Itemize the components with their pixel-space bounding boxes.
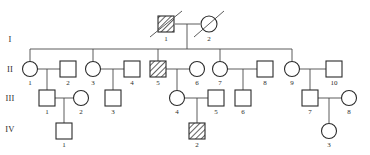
individual-II-2-male-square[interactable] [60,61,76,77]
individual-III-4-female-circle[interactable] [170,91,185,106]
individual-III-3-male-square[interactable] [105,90,121,106]
individual-III-8-female-circle[interactable] [342,91,357,106]
label-II-1: 1 [28,79,32,87]
generation-label-IV: IV [5,124,15,134]
individual-II-6-female-circle[interactable] [190,62,205,77]
label-II-7: 7 [218,79,222,87]
individual-II-9-female-circle[interactable] [285,62,300,77]
generation-label-II: II [7,64,13,74]
label-III-7: 7 [308,108,312,116]
individual-IV-3-female-circle[interactable] [322,124,337,139]
label-II-9: 9 [290,79,294,87]
individual-II-7-female-circle[interactable] [213,62,228,77]
individual-III-5-male-square[interactable] [208,90,224,106]
generation-label-III: III [5,93,14,103]
individual-IV-1-male-square[interactable] [56,123,72,139]
label-IV-2: 2 [195,141,199,149]
label-III-4: 4 [175,108,179,116]
label-III-3: 3 [111,108,115,116]
label-III-5: 5 [214,108,218,116]
individual-II-4-male-square[interactable] [124,61,140,77]
label-I-1: 1 [164,35,168,43]
individual-II-5-affected-male-square[interactable] [150,61,166,77]
label-II-3: 3 [91,79,95,87]
label-III-6: 6 [241,108,245,116]
individual-II-10-male-square[interactable] [326,61,342,77]
label-II-2: 2 [66,79,70,87]
label-IV-1: 1 [62,141,66,149]
label-III-2: 2 [79,108,83,116]
generation-label-I: I [8,34,11,44]
label-II-6: 6 [195,79,199,87]
label-III-1: 1 [45,108,49,116]
label-II-8: 8 [263,79,267,87]
label-II-5: 5 [156,79,160,87]
label-II-4: 4 [130,79,134,87]
individual-III-6-male-square[interactable] [235,90,251,106]
pedigree-chart: 1 2 1 2 3 4 5 6 7 8 9 10 1 [0,0,370,155]
individual-II-8-male-square[interactable] [257,61,273,77]
individual-III-1-male-square[interactable] [39,90,55,106]
label-IV-3: 3 [327,141,331,149]
individual-II-3-female-circle[interactable] [86,62,101,77]
individual-III-7-male-square[interactable] [302,90,318,106]
pedigree-canvas: 1 2 1 2 3 4 5 6 7 8 9 10 1 [0,0,370,155]
individual-IV-2-affected-male-square[interactable] [189,123,205,139]
label-III-8: 8 [347,108,351,116]
label-I-2: 2 [207,35,211,43]
individual-III-2-female-circle[interactable] [74,91,89,106]
individual-II-1-female-circle[interactable] [23,62,38,77]
label-II-10: 10 [331,79,339,87]
